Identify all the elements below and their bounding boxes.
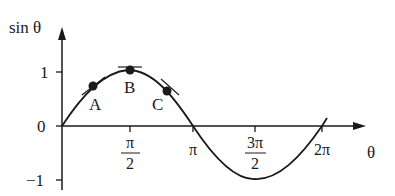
point-c-label: C — [152, 95, 163, 114]
x-axis-arrow-icon — [353, 122, 366, 130]
y-tick-1: 1 — [40, 63, 49, 82]
point-b-label: B — [124, 78, 135, 97]
x-tick-3pi-2-num: 3π — [247, 134, 263, 151]
y-axis-label: sin θ — [9, 18, 41, 37]
x-tick-pi-2-den: 2 — [126, 155, 134, 172]
x-axis-label: θ — [367, 143, 375, 162]
y-axis-arrow-icon — [58, 27, 66, 40]
point-a-label: A — [89, 95, 102, 114]
sine-diagram: A B C sin θ θ 1 0 −1 π 2 π 3π 2 2π — [0, 0, 395, 196]
y-tick-0: 0 — [37, 117, 46, 136]
point-a — [89, 82, 98, 91]
sine-curve — [62, 70, 327, 179]
x-tick-pi-2-num: π — [126, 134, 134, 151]
y-tick-neg1: −1 — [26, 171, 44, 190]
x-tick-2pi: 2π — [314, 141, 330, 158]
x-tick-3pi-2-den: 2 — [251, 155, 259, 172]
point-c — [163, 87, 172, 96]
point-b — [126, 66, 135, 75]
x-tick-pi: π — [189, 141, 197, 158]
